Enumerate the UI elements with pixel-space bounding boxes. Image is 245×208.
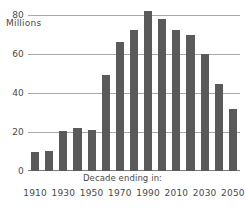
x-axis-title: Decade ending in: (0, 173, 245, 183)
y-axis-tick-label: 40 (12, 88, 24, 98)
bar (186, 35, 194, 171)
bar (31, 152, 39, 171)
y-axis-tick-label: 80 (12, 10, 24, 20)
bar (215, 84, 223, 171)
x-axis-tick-label: 2050 (221, 188, 245, 198)
bar (88, 130, 96, 171)
x-axis-tick-label: 1970 (108, 188, 132, 198)
bar (229, 109, 237, 171)
bar (144, 11, 152, 171)
y-axis-tick-label: 60 (12, 49, 24, 59)
bar (130, 30, 138, 171)
bars-group (28, 5, 240, 171)
bar (116, 42, 124, 171)
x-axis-tick-label: 1930 (51, 188, 75, 198)
bar (172, 30, 180, 171)
bar-chart: Millions 020406080 Decade ending in: 191… (0, 0, 245, 208)
x-axis-tick-label: 1990 (136, 188, 160, 198)
bar (201, 54, 209, 171)
plot-area: 020406080 (28, 5, 240, 171)
x-axis-tick-label: 2030 (193, 188, 217, 198)
bar (59, 131, 67, 171)
bar (102, 75, 110, 171)
x-axis-tick-label: 1910 (23, 188, 47, 198)
bar (73, 128, 81, 171)
x-axis-tick-label: 2010 (165, 188, 189, 198)
x-axis-tick-labels: 19101930195019701990201020302050 (28, 188, 240, 202)
bar (158, 19, 166, 171)
bar (45, 151, 53, 172)
y-axis-tick-label: 20 (12, 127, 24, 137)
x-axis-tick-label: 1950 (80, 188, 104, 198)
